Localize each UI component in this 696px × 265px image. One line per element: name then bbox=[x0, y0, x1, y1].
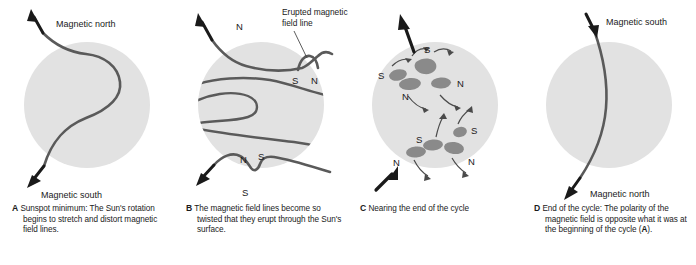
panel-d-caption: D End of the cycle: The polarity of the … bbox=[534, 203, 690, 236]
polarity-label-upper-3: N bbox=[402, 91, 409, 102]
magnetic-north-arrow bbox=[564, 178, 580, 200]
polarity-label-upper-4: N bbox=[457, 78, 464, 89]
field-entry-arrow bbox=[196, 165, 214, 186]
polarity-label-lower-2: S bbox=[416, 134, 422, 145]
panel-b-caption-text: The magnetic field lines become so twist… bbox=[194, 204, 341, 234]
panel-b-artwork: Erupted magnetic field line N S N N S S bbox=[174, 0, 348, 205]
polarity-label-lower-3: N bbox=[393, 157, 400, 168]
sun-disc bbox=[546, 42, 672, 168]
sun-disc bbox=[24, 42, 150, 168]
polarity-label-top-outside: N bbox=[236, 21, 243, 32]
polarity-label-upper-1: S bbox=[424, 44, 430, 55]
erupted-field-line-label-line2: field line bbox=[282, 18, 313, 28]
panel-c-caption-text: Nearing the end of the cycle bbox=[368, 204, 469, 213]
field-entry-arrow bbox=[376, 166, 398, 190]
panel-b: Erupted magnetic field line N S N N S S … bbox=[174, 0, 348, 265]
sun-disc bbox=[198, 42, 324, 168]
panel-d-artwork: Magnetic south Magnetic north bbox=[522, 0, 696, 205]
field-exit-arrow bbox=[195, 13, 212, 40]
magnetic-south-arrow bbox=[586, 14, 599, 38]
solar-magnetic-cycle-figure: Magnetic north Magnetic south A Sunspot … bbox=[0, 0, 696, 265]
panel-d: Magnetic south Magnetic north D End of t… bbox=[522, 0, 696, 265]
polarity-label-lower-1: S bbox=[471, 125, 477, 136]
panel-d-caption-after: ). bbox=[647, 225, 652, 234]
magnetic-south-label: Magnetic south bbox=[41, 190, 102, 200]
polarity-label-top-right: N bbox=[311, 75, 318, 86]
polarity-label-bottom-right: S bbox=[258, 151, 264, 162]
panel-c-artwork: S S N N S S bbox=[348, 0, 522, 205]
panel-b-letter: B bbox=[186, 203, 192, 213]
panel-c-caption: C Nearing the end of the cycle bbox=[360, 203, 516, 215]
panel-a-letter: A bbox=[12, 203, 18, 213]
polarity-label-bottom-left: N bbox=[240, 154, 247, 165]
magnetic-north-arrow bbox=[27, 9, 43, 33]
polarity-label-bottom-outside: S bbox=[242, 187, 248, 198]
panel-c-letter: C bbox=[360, 203, 366, 213]
panel-d-letter: D bbox=[534, 203, 540, 213]
magnetic-north-label: Magnetic north bbox=[56, 19, 116, 29]
field-exit-arrow bbox=[398, 14, 414, 52]
panel-a-artwork: Magnetic north Magnetic south bbox=[0, 0, 174, 205]
magnetic-south-label: Magnetic south bbox=[606, 17, 667, 27]
panel-d-caption-before: End of the cycle: The polarity of the ma… bbox=[542, 204, 686, 234]
erupted-field-line-label-line1: Erupted magnetic bbox=[282, 7, 348, 17]
panel-a: Magnetic north Magnetic south A Sunspot … bbox=[0, 0, 174, 265]
panel-a-caption: A Sunspot minimum: The Sun's rotation be… bbox=[12, 203, 168, 236]
polarity-label-top-left: S bbox=[292, 75, 298, 86]
polarity-label-upper-2: S bbox=[378, 70, 384, 81]
panel-b-caption: B The magnetic field lines become so twi… bbox=[186, 203, 342, 236]
panel-c: S S N N S S bbox=[348, 0, 522, 265]
magnetic-north-label: Magnetic north bbox=[590, 189, 650, 199]
magnetic-south-arrow bbox=[27, 166, 44, 188]
polarity-label-lower-4: N bbox=[468, 156, 475, 167]
panel-a-caption-text: Sunspot minimum: The Sun's rotation begi… bbox=[20, 204, 157, 234]
